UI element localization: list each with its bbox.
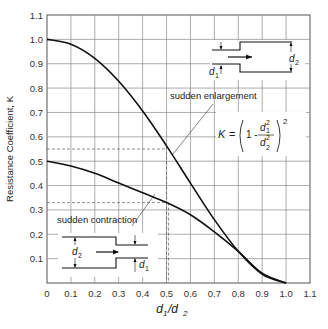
svg-text:/d: /d [167,302,178,316]
x-tick-label: 0.4 [136,288,149,299]
x-tick-label: 0.1 [64,288,77,299]
svg-text:2: 2 [266,119,270,126]
y-tick-label: 0.9 [30,58,43,69]
svg-text:2: 2 [182,309,188,318]
svg-text:1: 1 [215,72,219,79]
y-tick-label: 0.4 [30,180,43,191]
x-tick-label: 1.0 [279,288,292,299]
y-tick-label: 0.8 [30,83,43,94]
x-tick-label: 0.8 [232,288,245,299]
svg-text:2: 2 [295,59,299,66]
y-axis-label: Resistance Coefficient, K [4,95,15,202]
y-tick-label: 0.5 [30,156,43,167]
x-axis-label: d 1 /d 2 [156,302,188,318]
svg-text:=: = [229,128,235,140]
sudden-contraction-label: sudden contraction [57,214,137,225]
sudden-enlargement-label: sudden enlargement [170,90,257,101]
enlargement-leader-line [173,104,213,154]
y-tick-label: 0.3 [30,204,43,215]
resistance-coefficient-chart: 00.10.20.30.40.50.60.70.80.91.01.10.10.2… [0,0,328,329]
y-tick-label: 1.0 [30,34,43,45]
svg-text:1 -: 1 - [246,129,258,140]
x-tick-label: 0.5 [160,288,173,299]
y-tick-label: 0.2 [30,229,43,240]
y-tick-label: 0.1 [30,253,43,264]
x-tick-label: 0.6 [184,288,197,299]
svg-text:2: 2 [266,144,270,151]
svg-text:1: 1 [145,265,149,272]
svg-text:2: 2 [78,252,82,259]
svg-text:2: 2 [266,134,270,141]
svg-text:2: 2 [283,117,288,126]
x-tick-label: 0.9 [256,288,269,299]
x-tick-label: 0.7 [208,288,221,299]
x-tick-label: 0 [44,288,49,299]
y-tick-label: 0.7 [30,107,43,118]
svg-text:1: 1 [266,127,270,134]
svg-text:K: K [218,128,226,140]
x-tick-label: 0.3 [112,288,125,299]
y-tick-label: 1.1 [30,10,43,21]
x-tick-label: 0.2 [88,288,101,299]
formula: K = 1 - d 2 1 d 2 2 2 [216,112,306,156]
svg-text:1: 1 [163,309,167,318]
x-tick-label: 1.1 [303,288,316,299]
y-tick-label: 0.6 [30,131,43,142]
